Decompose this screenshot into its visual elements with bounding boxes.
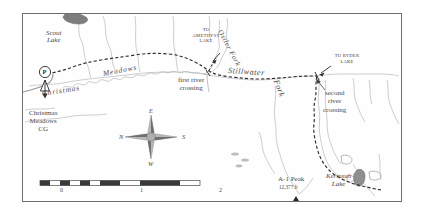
label-to-ryder-lake: TO RYDER LAKE	[323, 53, 371, 64]
label-second-river-crossing: second river crossing	[323, 89, 346, 114]
label-kermsuh-lake: Kermsuh Lake	[326, 172, 351, 188]
label-a1-peak: A-1 Peak	[278, 176, 304, 183]
scale-tick-1: 1	[140, 187, 143, 193]
label-a1-peak-elevation: 12,377 ft	[279, 185, 298, 190]
label-scout-lake: Scout Lake	[46, 30, 62, 45]
scale-tick-0: 0	[60, 187, 63, 193]
label-first-river-crossing: first river crossing	[178, 76, 204, 93]
scale-units-label: Miles	[128, 201, 143, 202]
label-christmas-meadows-cg: Christmas Meadows CG	[29, 109, 57, 133]
map-root: P E W N S	[0, 0, 423, 218]
scale-tick-2: 2	[219, 187, 222, 193]
map-frame: P E W N S	[22, 13, 402, 202]
